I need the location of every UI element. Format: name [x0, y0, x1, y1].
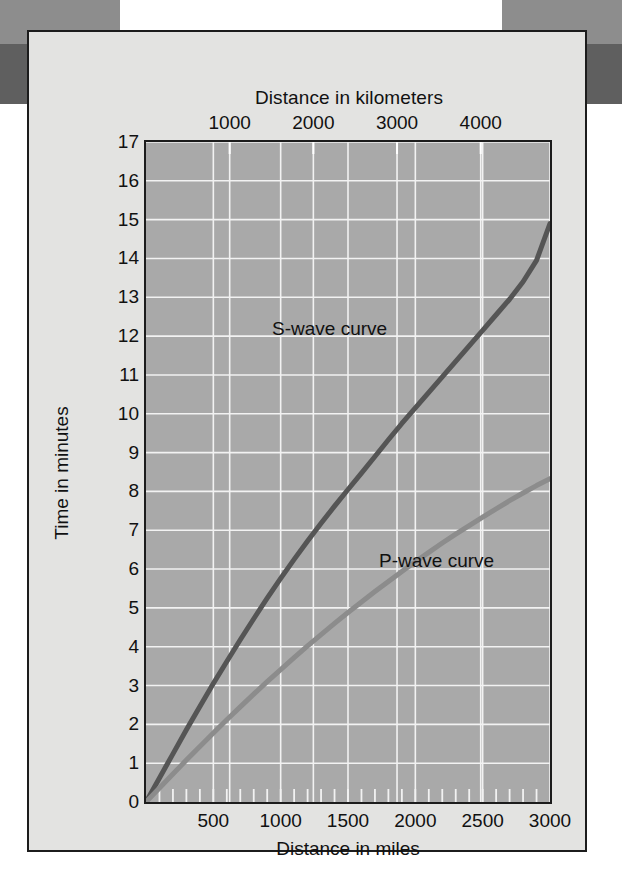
series-label-s-wave: S-wave curve: [272, 318, 387, 340]
y-tick-label: 5: [128, 597, 139, 619]
top-tick-label: 4000: [460, 112, 502, 134]
y-tick-label: 10: [118, 403, 139, 425]
x-tick-label: 3000: [529, 810, 571, 832]
x-tick-label: 500: [197, 810, 229, 832]
y-tick-label: 6: [128, 558, 139, 580]
y-axis-tick-labels: 01234567891011121314151617: [89, 140, 139, 804]
top-tick-label: 2000: [292, 112, 334, 134]
y-tick-label: 8: [128, 480, 139, 502]
plot-area: [144, 140, 552, 804]
y-tick-label: 2: [128, 713, 139, 735]
y-tick-label: 9: [128, 442, 139, 464]
y-tick-label: 4: [128, 636, 139, 658]
y-tick-label: 3: [128, 675, 139, 697]
y-tick-label: 0: [128, 791, 139, 813]
x-tick-label: 2500: [462, 810, 504, 832]
y-tick-label: 11: [119, 364, 139, 386]
series-label-p-wave: P-wave curve: [379, 550, 494, 572]
page-band-mid-right: [586, 44, 622, 104]
y-tick-label: 12: [118, 325, 139, 347]
y-tick-label: 14: [118, 247, 139, 269]
x-axis-tick-labels: 50010001500200025003000: [144, 810, 552, 836]
figure-card: Distance in kilometers 1000200030004000 …: [27, 30, 587, 852]
top-axis-title: Distance in kilometers: [144, 87, 554, 109]
x-tick-label: 2000: [394, 810, 436, 832]
top-tick-label: 1000: [209, 112, 251, 134]
x-tick-label: 1500: [327, 810, 369, 832]
y-tick-label: 13: [118, 286, 139, 308]
x-tick-label: 1000: [260, 810, 302, 832]
top-tick-label: 3000: [376, 112, 418, 134]
y-tick-label: 16: [118, 170, 139, 192]
plot-canvas: [146, 142, 550, 802]
y-axis-title: Time in minutes: [51, 373, 73, 573]
x-axis-title: Distance in miles: [144, 838, 552, 860]
top-axis-tick-labels: 1000200030004000: [144, 112, 554, 136]
y-tick-label: 15: [118, 209, 139, 231]
y-tick-label: 1: [128, 752, 139, 774]
y-tick-label: 7: [128, 519, 139, 541]
y-tick-label: 17: [118, 131, 139, 153]
